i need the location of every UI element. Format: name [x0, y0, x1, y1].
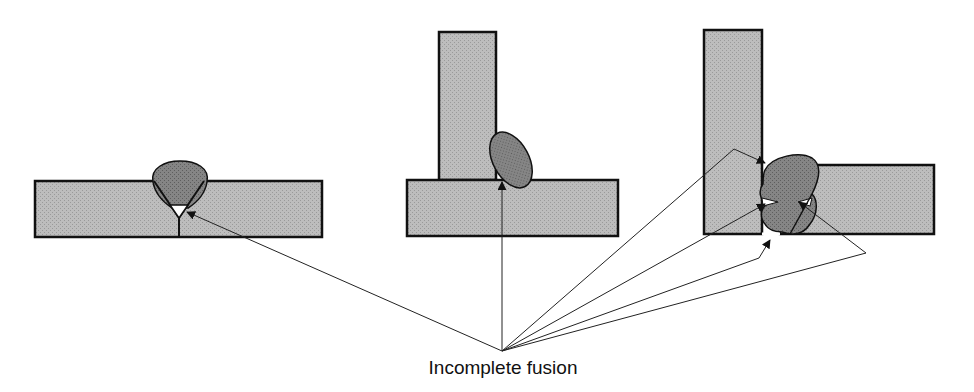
corner-joint [704, 30, 934, 234]
corner-weld-bead [760, 155, 819, 234]
caption-label: Incomplete fusion [420, 357, 586, 379]
t-joint [407, 32, 618, 236]
corner-vertical-plate [704, 30, 762, 234]
t-flange-plate [407, 180, 618, 236]
butt-joint [35, 161, 322, 237]
incomplete-fusion-diagram [0, 0, 974, 392]
leader-corner-bottom [502, 240, 770, 351]
t-web-plate [439, 32, 496, 180]
